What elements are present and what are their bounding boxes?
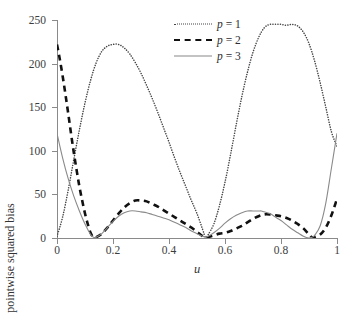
- legend-swatch-dashed-icon: [170, 34, 214, 46]
- series-line-p2: [57, 44, 337, 238]
- x-tick-label: 0.8: [274, 244, 288, 256]
- legend-swatch-dotted-icon: [170, 18, 214, 30]
- x-axis-title: u: [194, 262, 200, 277]
- legend-label: p = 3: [217, 50, 241, 62]
- x-tick-label: 0: [54, 244, 60, 256]
- y-axis-title-holder: pointwise squared bias: [14, 129, 15, 130]
- y-tick-label: 250: [2, 14, 46, 26]
- legend-label: p = 2: [217, 34, 241, 46]
- y-axis-title: pointwise squared bias: [3, 158, 18, 317]
- x-tick-label: 1: [334, 244, 340, 256]
- x-tick-label: 0.6: [218, 244, 232, 256]
- y-tick-label: 200: [2, 58, 46, 70]
- legend: p = 1p = 2p = 3: [170, 17, 241, 65]
- y-tick-label: 100: [2, 145, 46, 157]
- legend-swatch-solid-icon: [170, 50, 214, 62]
- x-tick-label: 0.2: [106, 244, 120, 256]
- x-tick-label: 0.4: [162, 244, 176, 256]
- legend-item-p1[interactable]: p = 1: [170, 17, 241, 31]
- y-tick-label: 150: [2, 101, 46, 113]
- legend-item-p2[interactable]: p = 2: [170, 33, 241, 47]
- legend-item-p3[interactable]: p = 3: [170, 49, 241, 63]
- legend-label: p = 1: [217, 18, 241, 30]
- x-axis-line: [57, 238, 338, 239]
